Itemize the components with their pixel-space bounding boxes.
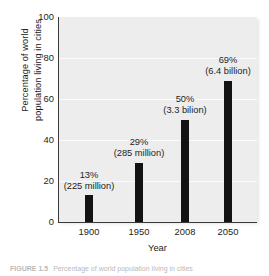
bar-value-label-2008: 50% (3.3 bilion): [142, 94, 228, 116]
bar-1950[interactable]: [135, 163, 143, 223]
bar-value-absolute-1950: (285 million): [96, 148, 182, 159]
bar-value-label-2050: 69% (6.4 billion): [185, 55, 269, 77]
y-tick-label-100: 100: [26, 12, 54, 22]
figure-caption-number: FIGURE 1.5: [10, 265, 48, 272]
x-tick-label-2050: 2050: [208, 226, 248, 237]
figure-bar-chart: Percentage of world population living in…: [0, 0, 269, 276]
y-tick-label-60: 60: [26, 94, 54, 104]
x-tick-label-2008: 2008: [165, 226, 205, 237]
figure-caption: FIGURE 1.5Percentage of world population…: [10, 264, 260, 273]
x-tick-label-1900: 1900: [69, 226, 109, 237]
figure-caption-text: Percentage of world population living in…: [53, 265, 193, 272]
bar-value-percent-2050: 69%: [185, 55, 269, 66]
bar-value-percent-1950: 29%: [96, 137, 182, 148]
bar-1900[interactable]: [85, 195, 93, 222]
bar-value-absolute-2050: (6.4 billion): [185, 66, 269, 77]
bar-value-label-1950: 29% (285 million): [96, 137, 182, 159]
x-axis-line: [58, 222, 257, 223]
y-tick-label-0: 0: [26, 217, 54, 227]
plot-area: 13% (225 million) 29% (285 million) 50% …: [58, 17, 257, 222]
y-axis-line: [58, 17, 59, 223]
bar-2008[interactable]: [181, 120, 189, 223]
bar-value-absolute-2008: (3.3 bilion): [142, 105, 228, 116]
x-tick-label-1950: 1950: [119, 226, 159, 237]
y-tick-label-80: 80: [26, 53, 54, 63]
y-tick-label-40: 40: [26, 135, 54, 145]
x-axis-title: Year: [58, 242, 257, 253]
x-axis-tick-labels: 1900 1950 2008 2050: [58, 226, 257, 239]
bar-value-percent-2008: 50%: [142, 94, 228, 105]
